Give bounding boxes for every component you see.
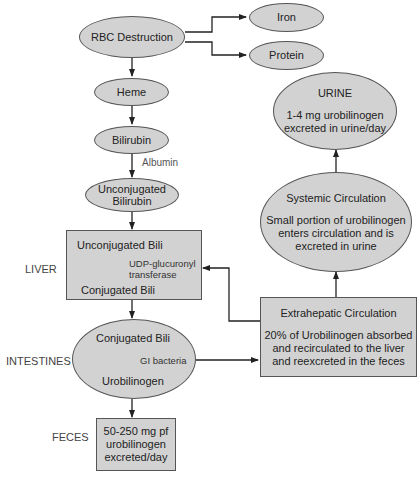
liver-top-label: Unconjugated Bili <box>77 239 163 252</box>
node-heme: Heme <box>94 78 169 106</box>
intestine-agent-label: GI bacteria <box>140 355 186 366</box>
node-feces: 50-250 mg pf urobilinogen excreted/day <box>96 418 176 471</box>
side-label-liver: LIVER <box>25 263 57 275</box>
systemic-line: enters circulation and is <box>278 227 394 240</box>
node-unconjugated-bilirubin: Unconjugated Bilirubin <box>85 178 179 212</box>
extrahepatic-title: Extrahepatic Circulation <box>280 307 396 320</box>
side-label-intestines: INTESTINES <box>6 355 71 367</box>
extrahepatic-line: and reexcreted in the feces <box>272 355 405 368</box>
node-iron: Iron <box>249 3 324 32</box>
urine-title: URINE <box>318 87 352 100</box>
node-liver-box: Unconjugated Bili UDP-glucuronyl transfe… <box>66 230 202 300</box>
extrahepatic-line: and recirculated to the liver <box>272 342 404 355</box>
node-label: RBC Destruction <box>91 31 173 44</box>
systemic-line: excreted in urine <box>295 240 376 253</box>
liver-enzyme-line: transferase <box>129 269 177 280</box>
edge-label-albumin: Albumin <box>142 157 178 168</box>
node-label-line: Unconjugated <box>98 183 166 195</box>
liver-enzyme-line: UDP-glucuronyl <box>129 258 196 269</box>
node-label: Heme <box>117 86 146 99</box>
feces-line: urobilinogen <box>106 438 166 451</box>
node-label: Bilirubin <box>112 134 151 147</box>
intestine-top-label: Conjugated Bili <box>96 332 170 345</box>
systemic-title: Systemic Circulation <box>286 192 386 205</box>
side-label-feces: FECES <box>52 431 89 443</box>
node-intestines: Conjugated Bili GI bacteria Urobilinogen <box>72 319 196 399</box>
urine-line: 1-4 mg urobilinogen <box>286 109 383 122</box>
intestine-bottom-label: Urobilinogen <box>102 375 164 388</box>
node-protein: Protein <box>249 41 324 70</box>
node-systemic-circulation: Systemic Circulation Small portion of ur… <box>260 172 412 272</box>
extrahepatic-line: 20% of Urobilinogen absorbed <box>265 329 413 342</box>
node-rbc-destruction: RBC Destruction <box>79 16 185 58</box>
systemic-line: Small portion of urobilinogen <box>266 214 405 227</box>
node-extrahepatic-circulation: Extrahepatic Circulation 20% of Urobilin… <box>260 297 417 377</box>
node-urine: URINE 1-4 mg urobilinogen excreted in ur… <box>273 72 397 150</box>
liver-bottom-label: Conjugated Bili <box>81 284 155 297</box>
node-label-line: Bilirubin <box>112 195 151 207</box>
node-bilirubin: Bilirubin <box>94 126 169 154</box>
node-label: Iron <box>277 11 296 24</box>
node-label: Protein <box>269 49 304 62</box>
urine-line: excreted in urine/day <box>284 122 386 135</box>
feces-line: excreted/day <box>105 451 168 464</box>
feces-line: 50-250 mg pf <box>104 425 169 438</box>
